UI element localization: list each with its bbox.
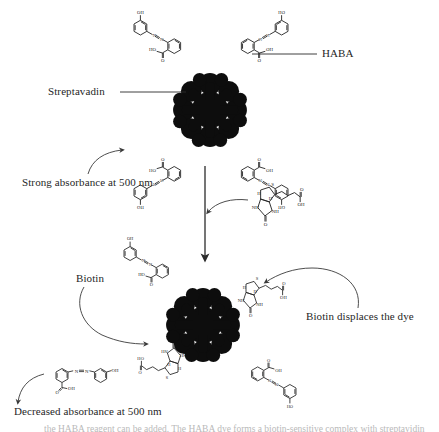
svg-text:OH: OH [112,368,119,373]
label-strong-absorbance: Strong absorbance at 500 nm [22,177,153,188]
figure-canvas: OH N N O [0,0,439,432]
diagram-svg: OH N N O [0,0,439,432]
bottom-complex-group [124,236,296,408]
decreased-absorbance-pointer [18,374,44,402]
top-complex-group [134,10,288,210]
haba-molecule-bound-upper-left [124,236,168,286]
biotin-feed-arrow [208,200,248,213]
svg-text:N: N [85,369,89,374]
caption-cut-off: the HABA reagent can be added. The HABA … [44,424,425,432]
streptavidin-blob-top [173,73,247,147]
streptavidin-blob-bottom [166,288,240,362]
biotin-label-arrow [80,287,146,344]
svg-text:N: N [75,369,79,374]
biotin-molecule-bound-upper-right [238,276,288,318]
label-streptavidin: Streptavadin [48,86,105,97]
haba-molecule-top-left [134,10,181,63]
released-haba-dye: O OH N N OH [56,368,119,395]
label-decreased-absorbance: Decreased absorbance at 500 nm [14,406,162,417]
haba-molecule-bottom-right [241,157,288,210]
haba-molecule-top-right [241,10,288,63]
svg-text:OH: OH [68,386,75,391]
label-biotin-displaces-dye: Biotin displaces the dye [306,311,414,322]
haba-molecule-bound-lower-right [252,358,296,408]
label-haba: HABA [322,48,354,59]
strong-absorbance-pointer [88,150,122,174]
label-biotin: Biotin [76,273,104,284]
